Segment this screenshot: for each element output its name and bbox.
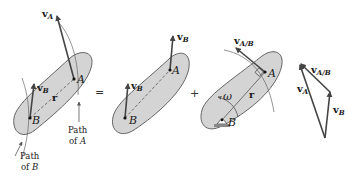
vector-vb — [325, 92, 330, 138]
point-a-dot — [72, 77, 75, 80]
label-vb-at-b: vB — [130, 80, 143, 93]
label-vb: vB — [332, 104, 345, 117]
label-path-of-a-1: Path — [68, 125, 88, 135]
rigid-body — [201, 52, 282, 129]
relative-velocity-diagram: vA vB r A B Path of A Path of B = vB vB … — [0, 0, 349, 178]
panel-absolute-motion: vA vB r A B Path of A Path of B — [14, 8, 92, 172]
equals-sign: = — [95, 86, 104, 99]
label-r: r — [52, 92, 58, 103]
label-point-a: A — [267, 67, 276, 80]
point-b-dot — [123, 116, 126, 119]
plus-sign: + — [190, 87, 199, 100]
label-point-a: A — [171, 64, 180, 77]
label-path-of-b-2: of B — [21, 162, 38, 172]
label-point-b: B — [31, 114, 40, 127]
velocity-vector-triangle: vA/B vA vB — [296, 64, 345, 138]
point-a-dot — [263, 70, 266, 73]
panel-translation: vB vB A B — [112, 31, 189, 134]
label-va: vA — [41, 8, 54, 21]
panel-rotation-about-b: vA/B r ω A B — [201, 35, 282, 129]
label-path-of-a-2: of A — [69, 136, 86, 146]
label-vab: vA/B — [233, 35, 254, 48]
label-point-b: B — [128, 114, 137, 127]
label-omega: ω — [223, 90, 232, 103]
label-point-b: B — [227, 116, 236, 129]
label-point-a: A — [76, 73, 85, 86]
label-r: r — [249, 89, 255, 100]
label-vb-at-a: vB — [176, 31, 189, 44]
label-path-of-b-1: Path — [20, 151, 40, 161]
